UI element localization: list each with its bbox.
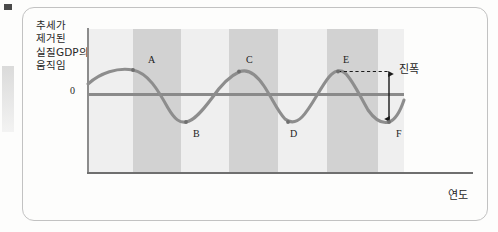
cycle-band-4 <box>278 29 327 172</box>
cycle-band-5 <box>327 29 378 172</box>
margin-bleed-text <box>2 66 14 132</box>
point-label-f: F <box>396 128 402 139</box>
point-label-b: B <box>193 128 200 139</box>
cycle-band-2 <box>181 29 229 172</box>
zero-tick-label: 0 <box>70 85 75 96</box>
y-axis-line <box>87 28 89 174</box>
margin-ink-mark <box>4 4 12 10</box>
point-label-c: C <box>246 54 253 65</box>
figure-page: 추세가 제거된 실질GDP의 움직임 0 ABCDE <box>0 0 498 232</box>
cycle-band-0 <box>88 29 133 172</box>
x-axis-label: 연도 <box>448 186 468 202</box>
zero-reference-line <box>88 93 404 96</box>
x-axis-line <box>87 172 473 174</box>
amplitude-label: 진폭 <box>399 60 419 76</box>
cycle-band-6 <box>378 29 404 172</box>
recession-expansion-bands <box>88 29 404 172</box>
point-label-e: E <box>343 54 349 65</box>
point-label-d: D <box>290 128 297 139</box>
y-axis-description: 추세가 제거된 실질GDP의 움직임 <box>36 19 89 73</box>
cycle-band-3 <box>229 29 278 172</box>
cycle-band-1 <box>133 29 181 172</box>
plot-area <box>88 29 404 172</box>
point-label-a: A <box>148 54 155 65</box>
